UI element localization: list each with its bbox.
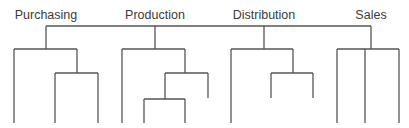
org-chart-diagram: Purchasing Production Distribution Sales <box>0 0 409 128</box>
department-label-purchasing: Purchasing <box>15 8 78 22</box>
branch-production <box>122 26 208 123</box>
branch-purchasing <box>14 26 98 123</box>
branch-distribution <box>231 26 313 123</box>
department-label-distribution: Distribution <box>233 8 296 22</box>
branch-sales <box>337 26 399 123</box>
department-label-sales: Sales <box>355 8 386 22</box>
department-label-production: Production <box>125 8 185 22</box>
